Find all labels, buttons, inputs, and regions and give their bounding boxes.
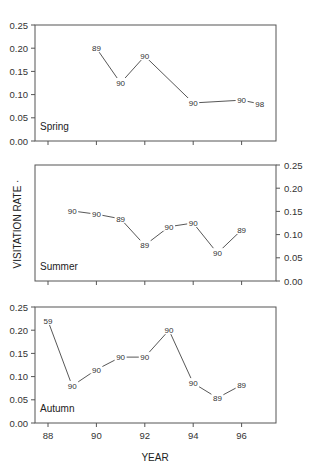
y-tick-label: 0.20 [284,183,303,194]
y-tick-label: 0.10 [10,89,29,100]
point-label: 90 [140,52,149,61]
point-label: 90 [116,79,125,88]
y-tick-label: 0.10 [284,229,303,240]
point-label: 90 [165,326,174,335]
x-tick-label: 90 [91,430,102,441]
y-tick-label: 0.25 [10,302,29,313]
panel-spring-frame [35,25,276,141]
panel-spring-series-line [96,48,259,104]
point-label: 59 [44,317,53,326]
point-label: 98 [255,100,264,109]
y-tick-label: 0.00 [10,136,29,147]
x-tick-label: 94 [188,430,199,441]
y-tick-label: 0.25 [10,20,29,31]
point-label: 90 [68,382,77,391]
point-label: 89 [237,226,246,235]
y-tick-label: 0.25 [284,160,303,171]
point-label: 90 [213,249,222,258]
point-label: 89 [213,394,222,403]
y-axis-title: VISITATION RATE · [12,180,23,269]
point-label: 90 [189,379,198,388]
visitation-rate-chart: 0.000.050.100.150.200.25899090909098Spri… [0,0,317,472]
point-label: 90 [68,207,77,216]
y-tick-label: 0.15 [284,206,303,217]
point-label: 90 [140,353,149,362]
x-axis-title: YEAR [141,452,168,463]
point-label: 90 [189,219,198,228]
point-label: 90 [237,96,246,105]
x-tick-label: 88 [43,430,54,441]
point-label: 90 [92,210,101,219]
point-label: 90 [92,366,101,375]
panel-spring-season-label: Spring [40,121,69,132]
panel-autumn-season-label: Autumn [40,403,74,414]
y-tick-label: 0.00 [284,276,303,287]
point-label: 89 [140,241,149,250]
point-label: 89 [92,44,101,53]
point-label: 90 [165,223,174,232]
y-tick-label: 0.20 [10,43,29,54]
point-label: 90 [189,99,198,108]
y-tick-label: 0.00 [10,418,29,429]
y-tick-label: 0.20 [10,325,29,336]
point-label: 90 [116,353,125,362]
point-label: 89 [237,381,246,390]
y-tick-label: 0.15 [10,348,29,359]
y-tick-label: 0.05 [10,112,29,123]
point-label: 89 [116,215,125,224]
y-tick-label: 0.15 [10,66,29,77]
panel-summer-season-label: Summer [40,261,78,272]
y-tick-label: 0.05 [284,252,303,263]
x-tick-label: 96 [236,430,247,441]
x-tick-label: 92 [140,430,151,441]
y-tick-label: 0.05 [10,394,29,405]
y-tick-label: 0.10 [10,371,29,382]
